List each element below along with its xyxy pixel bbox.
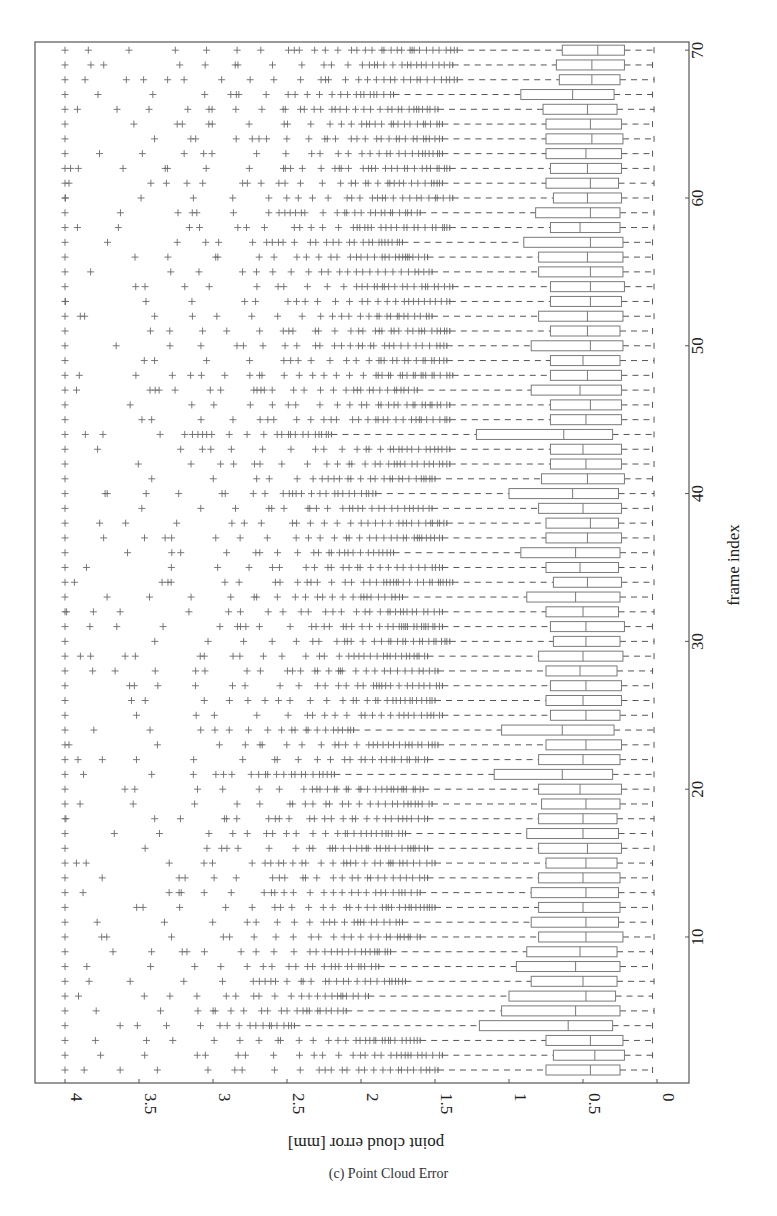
outlier-marker — [275, 860, 282, 867]
outlier-marker — [323, 490, 330, 497]
outlier-marker — [265, 194, 272, 201]
outlier-marker — [367, 342, 374, 349]
outliers — [62, 298, 451, 305]
outlier-marker — [372, 328, 379, 335]
outlier-marker — [339, 800, 346, 807]
outlier-marker — [314, 298, 321, 305]
outlier-marker — [157, 431, 164, 438]
outlier-marker — [394, 638, 401, 645]
outlier-marker — [189, 313, 196, 320]
outlier-marker — [423, 446, 430, 453]
outlier-marker — [443, 372, 450, 379]
outlier-marker — [381, 919, 388, 926]
outlier-marker — [130, 800, 137, 807]
outlier-marker — [399, 845, 406, 852]
outlier-marker — [193, 993, 200, 1000]
iqr-box — [542, 474, 625, 484]
box-frame-24 — [62, 725, 655, 735]
outlier-marker — [323, 697, 330, 704]
outlier-marker — [280, 771, 287, 778]
outliers — [62, 815, 429, 822]
box-frame-49 — [62, 356, 655, 366]
outlier-marker — [365, 549, 372, 556]
outlier-marker — [215, 239, 222, 246]
outlier-marker — [348, 579, 355, 586]
outlier-marker — [98, 933, 105, 940]
outlier-marker — [175, 490, 182, 497]
outlier-marker — [379, 1067, 386, 1074]
boxes-group — [62, 45, 655, 1075]
iqr-box — [556, 60, 624, 70]
outlier-marker — [337, 91, 344, 98]
box-frame-29 — [62, 651, 655, 661]
outlier-marker — [316, 1067, 323, 1074]
outlier-marker — [97, 1052, 104, 1059]
outlier-marker — [415, 564, 422, 571]
outlier-marker — [140, 904, 147, 911]
frame-tick-label: 10 — [688, 928, 707, 945]
outlier-marker — [62, 505, 69, 512]
outlier-marker — [399, 194, 406, 201]
outlier-marker — [429, 224, 436, 231]
outlier-marker — [347, 520, 354, 527]
outliers — [62, 254, 429, 261]
outlier-marker — [104, 239, 111, 246]
outlier-marker — [367, 91, 374, 98]
outlier-marker — [76, 372, 83, 379]
outlier-marker — [74, 224, 81, 231]
outlier-marker — [322, 682, 329, 689]
outlier-marker — [340, 845, 347, 852]
outlier-marker — [345, 165, 352, 172]
outlier-marker — [317, 313, 324, 320]
outlier-marker — [256, 786, 263, 793]
outlier-marker — [244, 431, 251, 438]
outlier-marker — [429, 1052, 436, 1059]
outlier-marker — [142, 283, 149, 290]
outlier-marker — [392, 416, 399, 423]
outlier-marker — [269, 874, 276, 881]
outlier-marker — [264, 416, 271, 423]
outlier-marker — [357, 313, 364, 320]
outlier-marker — [194, 786, 201, 793]
outlier-marker — [350, 697, 357, 704]
outlier-marker — [304, 712, 311, 719]
outlier-marker — [285, 401, 292, 408]
outlier-marker — [288, 993, 295, 1000]
outlier-marker — [292, 845, 299, 852]
outlier-marker — [62, 564, 69, 571]
outliers — [62, 889, 421, 896]
outlier-marker — [366, 387, 373, 394]
outlier-marker — [407, 47, 414, 54]
outlier-marker — [401, 298, 408, 305]
outlier-marker — [379, 904, 386, 911]
outlier-marker — [323, 461, 330, 468]
iqr-box — [531, 976, 617, 986]
outlier-marker — [62, 933, 69, 940]
outlier-marker — [246, 564, 253, 571]
outlier-marker — [282, 180, 289, 187]
outlier-marker — [282, 150, 289, 157]
outlier-marker — [152, 667, 159, 674]
outlier-marker — [321, 712, 328, 719]
outlier-marker — [306, 845, 313, 852]
outliers — [62, 239, 403, 246]
outlier-marker — [73, 860, 80, 867]
outlier-marker — [297, 106, 304, 113]
outlier-marker — [62, 741, 69, 748]
outliers — [62, 963, 380, 970]
outlier-marker — [353, 608, 360, 615]
outlier-marker — [415, 446, 422, 453]
box-frame-70 — [62, 45, 655, 55]
outliers — [62, 401, 451, 408]
outlier-marker — [172, 387, 179, 394]
outlier-marker — [319, 224, 326, 231]
outlier-marker — [293, 298, 300, 305]
outliers — [62, 342, 448, 349]
outlier-marker — [369, 756, 376, 763]
outlier-marker — [242, 741, 249, 748]
outlier-marker — [221, 372, 228, 379]
outlier-marker — [389, 357, 396, 364]
outlier-marker — [197, 653, 204, 660]
iqr-box — [546, 149, 621, 159]
iqr-box — [524, 237, 623, 247]
